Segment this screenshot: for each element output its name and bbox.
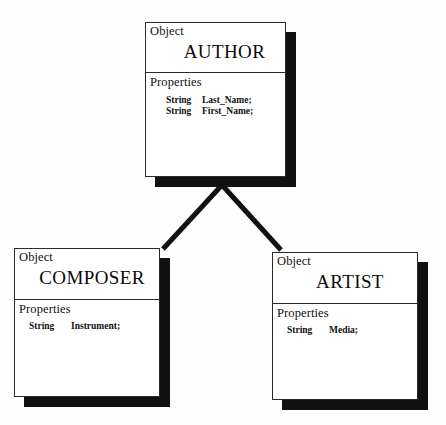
class-stereotype: Object: [15, 250, 159, 265]
class-box-artist[interactable]: Object ARTIST Properties StringMedia;: [272, 252, 418, 400]
class-title: AUTHOR: [146, 39, 285, 64]
connector-author-artist: [222, 185, 281, 250]
properties-section-label: Properties: [146, 74, 285, 90]
property-name: Media;: [329, 325, 358, 336]
class-header-composer: Object COMPOSER: [15, 249, 159, 300]
class-stereotype: Object: [273, 254, 417, 269]
class-box-author[interactable]: Object AUTHOR Properties StringLast_Name…: [145, 22, 286, 177]
property-list: StringLast_Name; StringFirst_Name;: [146, 90, 285, 117]
property-name: Instrument;: [71, 321, 120, 332]
class-diagram-canvas: Object AUTHOR Properties StringLast_Name…: [0, 0, 446, 425]
class-body-author: Properties StringLast_Name; StringFirst_…: [146, 73, 285, 177]
property-type: String: [29, 321, 71, 332]
class-header-author: Object AUTHOR: [146, 23, 285, 73]
property-row: StringFirst_Name;: [146, 106, 285, 117]
class-box-composer[interactable]: Object COMPOSER Properties StringInstrum…: [14, 248, 160, 397]
class-header-artist: Object ARTIST: [273, 253, 417, 304]
property-name: Last_Name;: [202, 95, 252, 106]
property-row: StringLast_Name;: [146, 95, 285, 106]
property-type: String: [166, 95, 202, 106]
class-title: ARTIST: [273, 269, 417, 294]
properties-section-label: Properties: [15, 301, 159, 317]
property-name: First_Name;: [202, 106, 253, 117]
property-list: StringMedia;: [273, 321, 417, 336]
property-type: String: [287, 325, 329, 336]
property-row: StringInstrument;: [15, 321, 159, 332]
property-row: StringMedia;: [273, 325, 417, 336]
class-title: COMPOSER: [15, 265, 159, 290]
class-body-artist: Properties StringMedia;: [273, 304, 417, 400]
properties-section-label: Properties: [273, 305, 417, 321]
property-type: String: [166, 106, 202, 117]
class-stereotype: Object: [146, 24, 285, 39]
connector-author-composer: [163, 185, 222, 249]
class-body-composer: Properties StringInstrument;: [15, 300, 159, 397]
property-list: StringInstrument;: [15, 317, 159, 332]
